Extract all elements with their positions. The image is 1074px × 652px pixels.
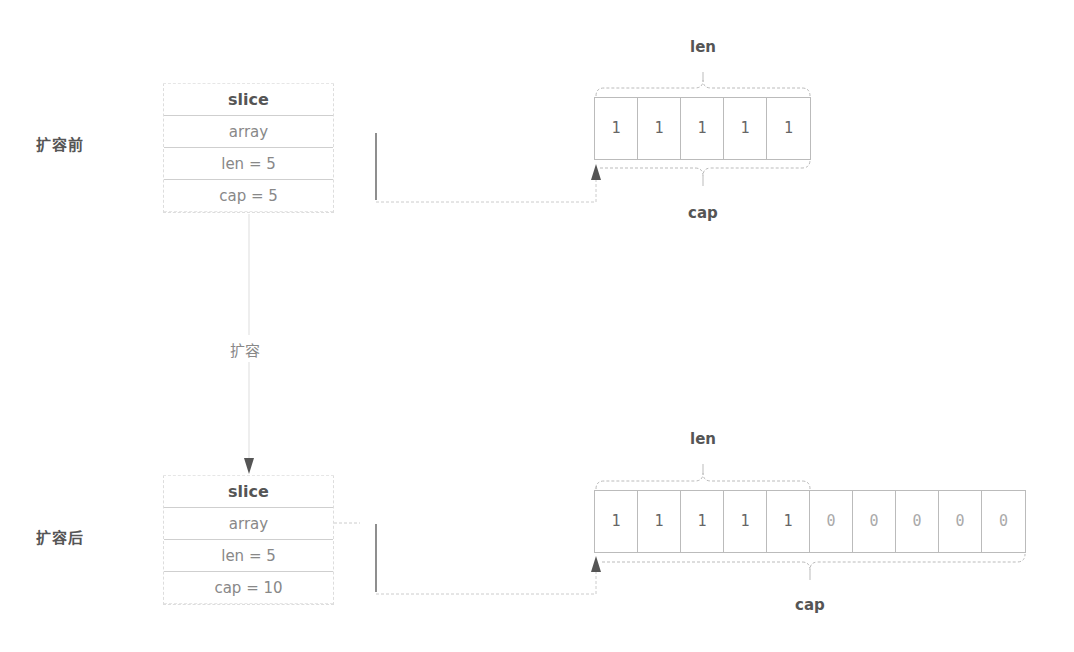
array-cell: 1 xyxy=(595,98,638,159)
len-brace-before xyxy=(596,80,810,96)
pointer-line-before xyxy=(376,178,596,202)
underlying-array-before: 1 1 1 1 1 xyxy=(594,97,811,160)
array-cell-zero: 0 xyxy=(810,491,853,552)
len-brace-after xyxy=(596,473,810,489)
slice-field-array: array xyxy=(164,508,333,540)
cap-label-after: cap xyxy=(790,596,830,614)
len-label-after: len xyxy=(683,430,723,448)
array-cell: 1 xyxy=(638,491,681,552)
array-cell: 1 xyxy=(638,98,681,159)
slice-struct-before: slice array len = 5 cap = 5 xyxy=(163,83,334,213)
pointer-line-after xyxy=(376,570,596,594)
arrow-head-icon-after xyxy=(591,556,601,572)
slice-field-cap: cap = 5 xyxy=(164,180,333,212)
stage-label-before: 扩容前 xyxy=(36,133,84,154)
cap-brace-before xyxy=(600,160,810,176)
slice-header: slice xyxy=(164,84,333,116)
array-cell: 1 xyxy=(767,98,810,159)
array-cell-zero: 0 xyxy=(853,491,896,552)
slice-field-len: len = 5 xyxy=(164,540,333,572)
cap-label-before: cap xyxy=(683,204,723,222)
stage-label-after: 扩容后 xyxy=(36,526,84,547)
array-cell-zero: 0 xyxy=(982,491,1025,552)
array-cell-zero: 0 xyxy=(896,491,939,552)
slice-header: slice xyxy=(164,476,333,508)
array-cell: 1 xyxy=(595,491,638,552)
slice-struct-after: slice array len = 5 cap = 10 xyxy=(163,475,334,605)
arrow-head-icon-before xyxy=(591,164,601,180)
array-cell: 1 xyxy=(724,491,767,552)
array-cell-zero: 0 xyxy=(939,491,982,552)
array-cell: 1 xyxy=(767,491,810,552)
array-cell: 1 xyxy=(681,98,724,159)
slice-field-len: len = 5 xyxy=(164,148,333,180)
underlying-array-after: 1 1 1 1 1 0 0 0 0 0 xyxy=(594,490,1026,553)
connectors-layer xyxy=(0,0,1074,652)
slice-field-cap: cap = 10 xyxy=(164,572,333,604)
len-label-before: len xyxy=(683,38,723,56)
transition-label: 扩容 xyxy=(230,339,260,360)
slice-field-array: array xyxy=(164,116,333,148)
array-cell: 1 xyxy=(724,98,767,159)
cap-brace-after xyxy=(602,554,1025,570)
array-cell: 1 xyxy=(681,491,724,552)
transition-arrow-head-icon xyxy=(244,458,254,474)
